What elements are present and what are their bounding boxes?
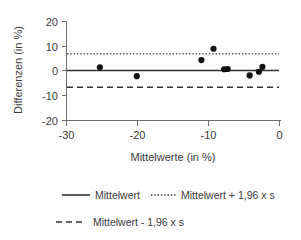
scatter-points-group (97, 46, 266, 80)
x-tick-label-3: 0 (276, 129, 282, 141)
y-tick-labels: 20 10 0 -10 -20 (42, 16, 58, 127)
data-point (210, 46, 216, 52)
y-tick-label-0: 20 (46, 16, 58, 28)
x-tick-label-0: -30 (59, 129, 75, 141)
data-point (225, 66, 231, 72)
x-tick-marks (67, 121, 280, 126)
y-tick-label-2: 0 (52, 65, 58, 77)
legend-entry-lower-loa: Mittelwert - 1,96 x s (56, 216, 184, 228)
x-axis-title: Mittelwerte (in %) (131, 151, 216, 163)
data-point (97, 64, 103, 70)
x-tick-label-1: -20 (130, 129, 146, 141)
y-tick-label-1: 10 (46, 41, 58, 53)
data-point (259, 64, 265, 70)
data-point (247, 72, 253, 78)
data-point (134, 73, 140, 79)
legend-entry-upper-loa: Mittelwert + 1,96 x s (151, 189, 275, 201)
y-tick-label-3: -10 (42, 90, 58, 102)
legend-label-upper-loa: Mittelwert + 1,96 x s (181, 189, 275, 201)
y-tick-label-4: -20 (42, 115, 58, 127)
data-point (198, 57, 204, 63)
x-tick-labels: -30 -20 -10 0 (59, 129, 283, 141)
x-tick-label-2: -10 (201, 129, 217, 141)
data-point (256, 69, 262, 75)
reference-lines-group (67, 54, 279, 87)
y-tick-marks (62, 22, 66, 121)
y-axis-title: Differenzen (in %) (12, 26, 24, 114)
legend-entry-mean: Mittelwert (62, 189, 140, 201)
bland-altman-figure: 20 10 0 -10 -20 -30 -20 -10 0 Mittelwert… (0, 0, 301, 240)
legend-label-lower-loa: Mittelwert - 1,96 x s (93, 216, 184, 228)
legend-label-mean: Mittelwert (95, 189, 140, 201)
chart-legend: Mittelwert Mittelwert + 1,96 x s Mittelw… (0, 182, 301, 240)
